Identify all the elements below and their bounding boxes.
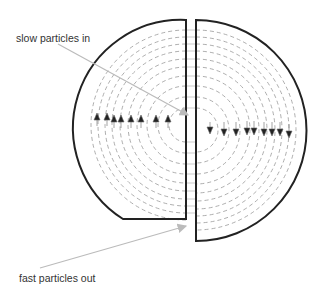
cyclotron-diagram <box>0 0 323 294</box>
orbits-left <box>91 30 186 220</box>
output-label: fast particles out <box>19 272 95 284</box>
gap-ticks <box>186 30 196 213</box>
output-pointer <box>40 226 186 268</box>
input-label: slow particles in <box>16 32 90 44</box>
